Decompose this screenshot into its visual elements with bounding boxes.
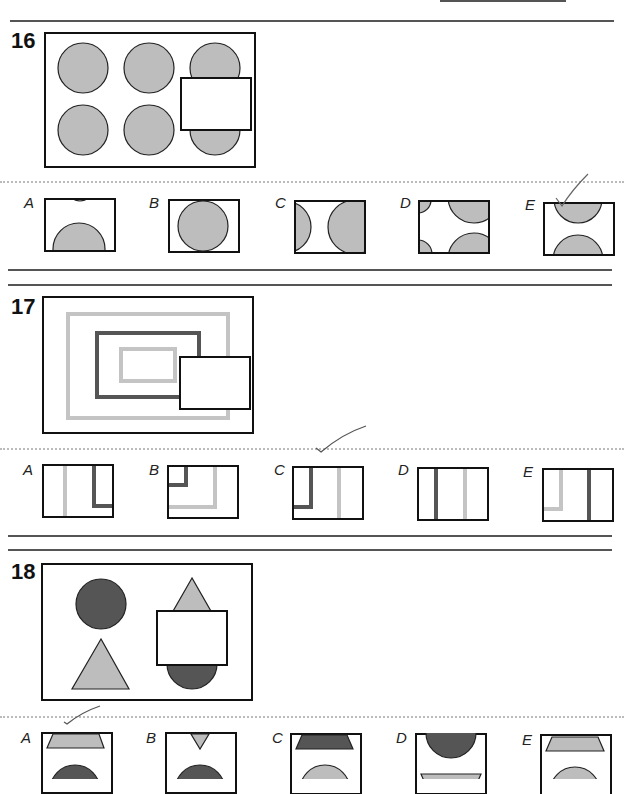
option-label: B [149,194,159,211]
missing-piece-box [157,611,227,665]
q17-option-b[interactable] [167,465,239,519]
option-label: E [525,196,535,213]
question-17-figure [42,296,254,434]
q18-option-a[interactable] [41,732,113,792]
option-label: D [400,194,411,211]
top-partial-rule [440,0,566,2]
question-18-figure [41,563,253,701]
checkmark-icon [552,170,592,214]
section-rule [8,535,612,537]
option-label: C [275,194,286,211]
q17-option-e[interactable] [542,468,614,522]
q16-option-a[interactable] [44,198,116,252]
q16-option-b[interactable] [168,199,240,253]
section-rule [8,269,612,271]
option-label: A [24,194,34,211]
checkmark-icon [62,704,102,728]
option-label: E [523,463,533,480]
option-label: B [146,729,156,746]
section-rule [8,284,612,286]
q18-option-e[interactable] [540,734,612,794]
q17-option-c[interactable] [292,466,364,520]
missing-piece-box [181,78,251,130]
q17-option-a[interactable] [42,464,114,518]
q18-option-c[interactable] [290,733,362,793]
option-label: C [272,729,283,746]
option-label: E [522,731,532,748]
q18-option-d[interactable] [415,733,487,793]
question-16-figure [44,32,256,168]
option-label: C [274,461,285,478]
dotted-separator [0,448,624,450]
question-number: 17 [11,294,35,320]
option-label: B [149,461,159,478]
checkmark-icon [314,424,370,456]
section-rule [8,549,612,551]
dotted-separator [0,181,624,183]
q16-option-d[interactable] [418,200,490,254]
question-number: 16 [11,28,35,54]
q17-option-d[interactable] [417,467,489,521]
missing-piece-box [180,357,250,409]
question-number: 18 [11,559,35,585]
option-label: A [21,729,31,746]
option-label: D [396,729,407,746]
q18-option-b[interactable] [165,732,237,792]
section-rule [10,20,614,22]
option-label: D [398,461,409,478]
q16-option-c[interactable] [294,200,366,254]
option-label: A [23,461,33,478]
